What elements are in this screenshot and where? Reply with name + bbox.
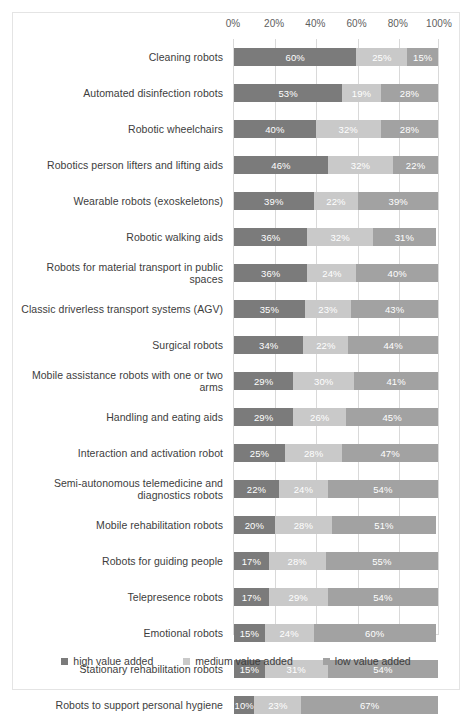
bar-row: 40%32%28% xyxy=(234,111,438,147)
category-label: Robotic walking aids xyxy=(19,231,223,244)
bar-segment: 32% xyxy=(328,156,393,174)
x-axis-tick: 20% xyxy=(264,18,284,29)
bar-row: 46%32%22% xyxy=(234,147,438,183)
stacked-bar: 36%32%31% xyxy=(234,228,438,246)
bar-rows: 60%25%15%53%19%28%40%32%28%46%32%22%39%2… xyxy=(234,39,438,634)
category-label: Mobile rehabilitation robots xyxy=(19,519,223,532)
category-label: Emotional robots xyxy=(19,627,223,640)
bar-segment: 36% xyxy=(234,264,307,282)
stacked-bar: 17%29%54% xyxy=(234,588,438,606)
bar-segment: 17% xyxy=(234,552,269,570)
bar-segment: 23% xyxy=(254,696,301,714)
category-label: Telepresence robots xyxy=(19,591,223,604)
bar-row: 53%19%28% xyxy=(234,75,438,111)
x-axis-tick: 100% xyxy=(426,18,452,29)
bar-row: 10%23%67% xyxy=(234,687,438,718)
bar-row: 29%26%45% xyxy=(234,399,438,435)
bar-segment: 15% xyxy=(407,48,438,66)
category-label: Interaction and activation robot xyxy=(19,447,223,460)
bar-segment: 24% xyxy=(307,264,356,282)
bar-segment: 29% xyxy=(269,588,328,606)
category-label: Wearable robots (exoskeletons) xyxy=(19,195,223,208)
bar-segment: 34% xyxy=(234,336,303,354)
bar-row: 60%25%15% xyxy=(234,39,438,75)
bar-segment: 45% xyxy=(346,408,438,426)
bar-segment: 54% xyxy=(328,588,438,606)
plot-area: 60%25%15%53%19%28%40%32%28%46%32%22%39%2… xyxy=(233,39,439,635)
bar-segment: 25% xyxy=(356,48,407,66)
bar-segment: 53% xyxy=(234,84,342,102)
bar-segment: 23% xyxy=(305,300,351,318)
stacked-bar: 29%26%45% xyxy=(234,408,438,426)
category-labels: Cleaning robotsAutomated disinfection ro… xyxy=(19,39,229,635)
bar-segment: 41% xyxy=(354,372,438,390)
bar-segment: 30% xyxy=(293,372,354,390)
category-label: Handling and eating aids xyxy=(19,411,223,424)
bar-segment: 31% xyxy=(373,228,436,246)
bar-segment: 28% xyxy=(381,120,438,138)
legend-swatch-icon xyxy=(323,658,330,665)
bar-segment: 19% xyxy=(342,84,381,102)
stacked-bar: 20%28%51% xyxy=(234,516,438,534)
bar-segment: 39% xyxy=(234,192,314,210)
bar-row: 22%24%54% xyxy=(234,471,438,507)
legend-item[interactable]: low value added xyxy=(323,655,411,667)
category-label: Classic driverless transport systems (AG… xyxy=(19,303,223,316)
legend-label: medium value added xyxy=(195,655,292,667)
stacked-bar: 40%32%28% xyxy=(234,120,438,138)
bar-segment: 26% xyxy=(293,408,346,426)
bar-segment: 25% xyxy=(234,444,285,462)
bar-segment: 46% xyxy=(234,156,328,174)
bar-segment: 55% xyxy=(326,552,438,570)
stacked-bar: 22%24%54% xyxy=(234,480,438,498)
bar-segment: 29% xyxy=(234,372,293,390)
bar-segment: 22% xyxy=(314,192,359,210)
bar-segment: 15% xyxy=(234,624,265,642)
category-label: Mobile assistance robots with one or two… xyxy=(19,369,223,394)
bar-segment: 32% xyxy=(307,228,372,246)
bar-row: 29%30%41% xyxy=(234,363,438,399)
stacked-bar: 46%32%22% xyxy=(234,156,438,174)
stacked-bar: 10%23%67% xyxy=(234,696,438,714)
bar-segment: 40% xyxy=(234,120,316,138)
bar-segment: 54% xyxy=(328,480,438,498)
bar-segment: 43% xyxy=(351,300,438,318)
bar-segment: 35% xyxy=(234,300,305,318)
legend-label: low value added xyxy=(335,655,411,667)
category-label: Robots to support personal hygiene xyxy=(19,699,223,712)
legend-swatch-icon xyxy=(61,658,68,665)
bar-segment: 40% xyxy=(356,264,438,282)
bar-segment: 29% xyxy=(234,408,293,426)
x-axis-tick: 80% xyxy=(388,18,408,29)
stacked-bar: 60%25%15% xyxy=(234,48,438,66)
bar-segment: 51% xyxy=(332,516,436,534)
category-label: Cleaning robots xyxy=(19,51,223,64)
bar-segment: 10% xyxy=(234,696,254,714)
chart-figure: 0%20%40%60%80%100% 60%25%15%53%19%28%40%… xyxy=(12,12,460,690)
category-label: Surgical robots xyxy=(19,339,223,352)
legend-item[interactable]: high value added xyxy=(61,655,153,667)
stacked-bar: 35%23%43% xyxy=(234,300,438,318)
bar-row: 34%22%44% xyxy=(234,327,438,363)
bar-row: 36%32%31% xyxy=(234,219,438,255)
legend-swatch-icon xyxy=(183,658,190,665)
bar-segment: 47% xyxy=(342,444,438,462)
bar-segment: 36% xyxy=(234,228,307,246)
stacked-bar: 39%22%39% xyxy=(234,192,438,210)
bar-segment: 28% xyxy=(275,516,332,534)
bar-segment: 22% xyxy=(303,336,348,354)
category-label: Robotic wheelchairs xyxy=(19,123,223,136)
legend-item[interactable]: medium value added xyxy=(183,655,292,667)
stacked-bar: 53%19%28% xyxy=(234,84,438,102)
category-label: Robots for material transport in public … xyxy=(19,261,223,286)
bar-segment: 60% xyxy=(234,48,356,66)
stacked-bar: 29%30%41% xyxy=(234,372,438,390)
legend-label: high value added xyxy=(73,655,153,667)
x-axis-tick: 0% xyxy=(226,18,241,29)
stacked-bar: 25%28%47% xyxy=(234,444,438,462)
bar-segment: 28% xyxy=(269,552,326,570)
bar-row: 17%29%54% xyxy=(234,579,438,615)
x-axis-tick: 40% xyxy=(305,18,325,29)
bar-row: 25%28%47% xyxy=(234,435,438,471)
category-label: Robots for guiding people xyxy=(19,555,223,568)
